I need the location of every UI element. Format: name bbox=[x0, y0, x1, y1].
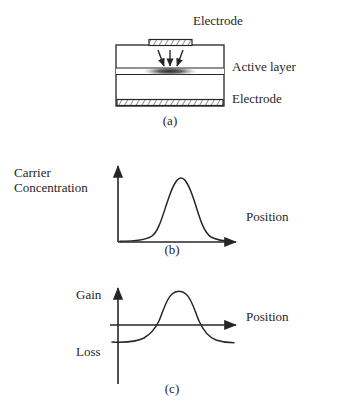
bottom-electrode-shape bbox=[117, 100, 223, 106]
active-region-shade bbox=[143, 67, 197, 76]
carrier-concentration-curve bbox=[120, 178, 232, 241]
caption-c: (c) bbox=[142, 381, 202, 397]
caption-b: (b) bbox=[142, 242, 202, 258]
active-layer-stripe bbox=[116, 67, 224, 76]
carrier-concentration-plot bbox=[0, 140, 341, 280]
caption-a: (a) bbox=[140, 113, 200, 129]
gain-loss-curve bbox=[112, 291, 234, 343]
top-electrode-shape bbox=[149, 40, 192, 46]
